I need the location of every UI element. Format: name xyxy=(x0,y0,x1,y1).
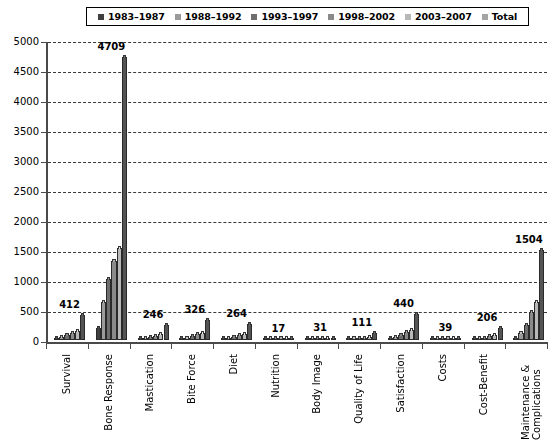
bar xyxy=(498,328,503,340)
bar-top-face xyxy=(185,336,188,339)
bar-value-label: 31 xyxy=(313,323,327,333)
bar-top-face xyxy=(525,323,528,326)
legend-swatch-icon xyxy=(482,14,488,20)
bar-top-face xyxy=(519,331,522,334)
legend-item: Total xyxy=(482,12,517,22)
bar-top-face xyxy=(373,331,376,334)
bar-top-face xyxy=(488,334,491,337)
x-tick-mark xyxy=(338,342,339,349)
bar-top-face xyxy=(65,333,68,336)
bar-top-face xyxy=(165,323,168,326)
bar-top-face xyxy=(71,331,74,334)
bar-group xyxy=(388,40,419,340)
legend-item-label: 1993–1997 xyxy=(261,12,318,22)
legend-item: 1988–1992 xyxy=(175,12,242,22)
x-tick-mark xyxy=(505,342,506,349)
bar-top-face xyxy=(227,336,230,339)
bar-group xyxy=(179,40,210,340)
bar-top-face xyxy=(243,332,246,335)
x-axis-ticks: SurvivalBone ResponseMasticationBite For… xyxy=(46,342,547,431)
x-tick-mark xyxy=(422,342,423,349)
x-tick-mark xyxy=(213,342,214,349)
x-tick-label: Bone Response xyxy=(103,354,114,431)
bar xyxy=(539,250,544,340)
bar-top-face xyxy=(55,336,58,339)
bar-value-label: 264 xyxy=(226,309,247,319)
y-tick-label: 2500 xyxy=(14,187,39,197)
y-tick-mark xyxy=(41,222,46,223)
x-tick-label: Mastication xyxy=(144,354,155,411)
bar-top-face xyxy=(149,335,152,338)
bar-top-face xyxy=(436,336,439,339)
bar-top-face xyxy=(326,336,329,339)
bar-top-face xyxy=(394,335,397,338)
bar xyxy=(164,325,169,340)
x-tick-label: Cost-Benefit xyxy=(478,354,489,415)
bar-top-face xyxy=(399,333,402,336)
legend-item-label: 2003–2007 xyxy=(415,12,472,22)
bar-value-label: 111 xyxy=(351,318,372,328)
bar-top-face xyxy=(540,248,543,251)
bar-group xyxy=(263,40,294,340)
bar-top-face xyxy=(222,336,225,339)
bar-group xyxy=(305,40,336,340)
bar xyxy=(122,57,127,340)
bar-group xyxy=(513,40,544,340)
x-tick-mark xyxy=(380,342,381,349)
bar-top-face xyxy=(352,336,355,339)
legend-item-label: 1988–1992 xyxy=(185,12,242,22)
bar-top-face xyxy=(363,336,366,339)
y-tick-label: 5000 xyxy=(14,37,39,47)
y-tick-label: 0 xyxy=(33,337,39,347)
legend-item: 1993–1997 xyxy=(251,12,318,22)
y-tick-mark xyxy=(41,72,46,73)
bar-top-face xyxy=(97,326,100,329)
y-tick-mark xyxy=(41,102,46,103)
x-tick-label: Costs xyxy=(437,354,448,381)
bar xyxy=(456,338,461,340)
bar-top-face xyxy=(232,335,235,338)
y-tick-mark xyxy=(41,192,46,193)
bar xyxy=(289,338,294,340)
bar-top-face xyxy=(269,336,272,339)
bar-top-face xyxy=(112,259,115,262)
bar-top-face xyxy=(306,336,309,339)
bar-value-label: 1504 xyxy=(515,235,543,245)
bar-top-face xyxy=(118,246,121,249)
bar-top-face xyxy=(201,331,204,334)
bar-value-label: 39 xyxy=(438,323,452,333)
bar-top-face xyxy=(483,336,486,339)
bar-top-face xyxy=(530,310,533,313)
bar-group xyxy=(54,40,85,340)
y-tick-label: 4500 xyxy=(14,67,39,77)
bar-top-face xyxy=(441,336,444,339)
bar-top-face xyxy=(154,334,157,337)
x-tick-mark xyxy=(171,342,172,349)
bar-top-face xyxy=(514,336,517,339)
bar-top-face xyxy=(191,334,194,337)
x-tick-label: Quality of Life xyxy=(353,354,364,424)
bar xyxy=(414,314,419,340)
bar xyxy=(247,324,252,340)
y-tick-mark xyxy=(41,312,46,313)
legend-swatch-icon xyxy=(98,14,104,20)
bar-value-label: 4709 xyxy=(97,42,125,52)
y-tick-mark xyxy=(41,252,46,253)
bar-top-face xyxy=(196,332,199,335)
bar xyxy=(80,315,85,340)
legend-item: 2003–2007 xyxy=(405,12,472,22)
x-tick-mark xyxy=(255,342,256,349)
bar-top-face xyxy=(102,300,105,303)
bar-value-label: 440 xyxy=(393,299,414,309)
x-tick-label: Body Image xyxy=(311,354,322,414)
bar-top-face xyxy=(139,336,142,339)
x-tick-mark xyxy=(547,342,548,349)
x-tick-mark xyxy=(464,342,465,349)
bar-top-face xyxy=(206,318,209,321)
bar-top-face xyxy=(405,330,408,333)
y-tick-label: 1500 xyxy=(14,247,39,257)
bar xyxy=(205,320,210,340)
bar-value-label: 326 xyxy=(184,305,205,315)
bar-top-face xyxy=(290,336,293,339)
